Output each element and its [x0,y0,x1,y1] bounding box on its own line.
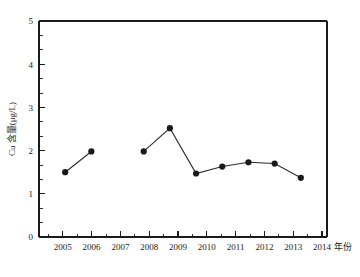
x-tick-label: 2013 [284,242,303,252]
data-point-marker [167,125,173,131]
y-tick-label: 2 [29,146,34,156]
x-axis-title: 年份 [334,241,352,252]
x-tick-label: 2007 [111,242,130,252]
x-tick-label: 2005 [54,242,73,252]
data-point-marker [141,148,147,154]
data-point-marker [298,175,304,181]
y-tick-label: 4 [29,60,34,70]
y-tick-label: 3 [29,103,34,113]
x-tick-label: 2011 [227,242,245,252]
line-chart-figure: 0 1 2 3 4 5 [0,0,360,277]
data-point-marker [219,163,225,169]
y-tick-label: 5 [29,16,34,26]
y-tick-label: 0 [29,232,34,242]
y-tick-label: 1 [29,189,34,199]
y-axis-title: Cu 含量(μg/L) [6,102,17,156]
x-tick-label: 2012 [255,242,273,252]
x-tick-label: 2008 [140,242,159,252]
chart-background [0,0,360,277]
x-tick-label: 2006 [83,242,102,252]
x-tick-label: 2014 [313,242,332,252]
x-tick-label: 2010 [198,242,217,252]
chart-canvas: 0 1 2 3 4 5 [0,0,360,277]
data-point-marker [193,170,199,176]
x-tick-label: 2009 [169,242,188,252]
data-point-marker [62,169,68,175]
data-point-marker [88,148,94,154]
data-point-marker [272,160,278,166]
data-point-marker [245,159,251,165]
